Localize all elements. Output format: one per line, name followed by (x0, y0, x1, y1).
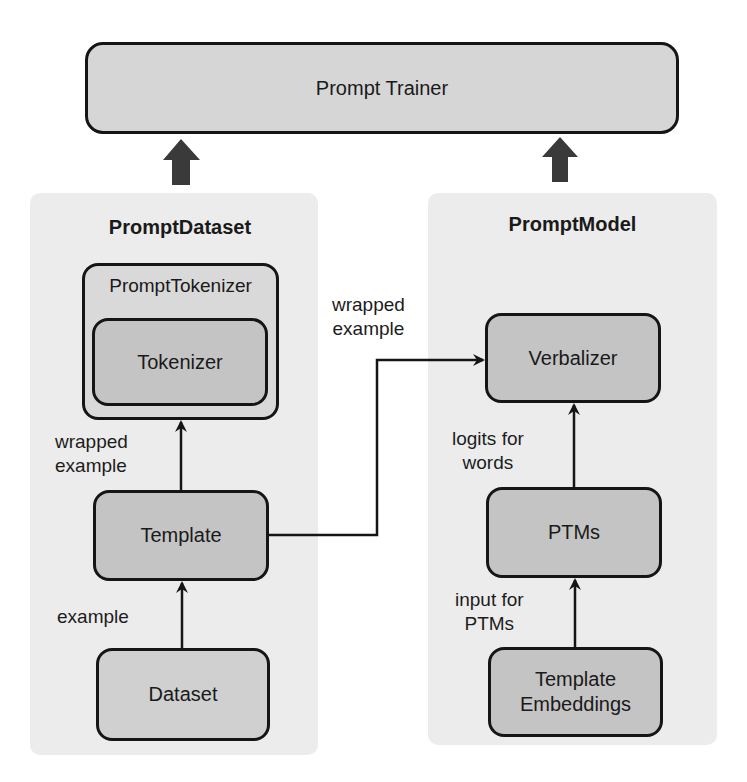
arrows-layer (0, 0, 747, 782)
arrow-template-to-verbalizer (269, 360, 483, 535)
thick-arrow-up-icon (542, 137, 578, 182)
thick-arrow-up-icon (163, 139, 200, 185)
